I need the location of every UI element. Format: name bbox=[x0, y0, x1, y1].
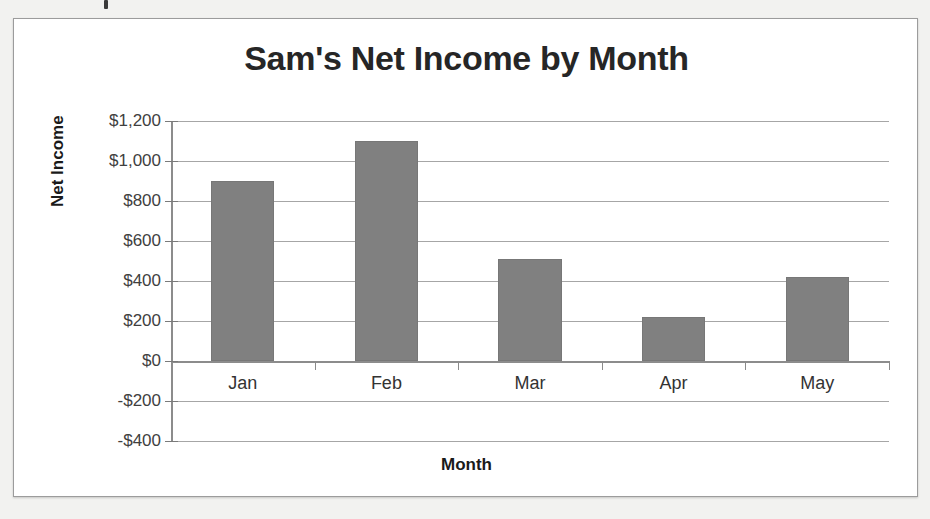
chart-title: Sam's Net Income by Month bbox=[14, 39, 919, 78]
x-axis-tick bbox=[458, 361, 459, 370]
x-axis-label-jan: Jan bbox=[228, 373, 257, 394]
x-axis-label-may: May bbox=[800, 373, 834, 394]
x-axis-label-mar: Mar bbox=[515, 373, 546, 394]
y-axis-tick bbox=[165, 361, 178, 362]
scan-artifact-speck bbox=[104, 0, 108, 9]
y-axis-tick bbox=[165, 441, 178, 442]
gridline bbox=[171, 441, 889, 442]
gridline bbox=[171, 361, 889, 363]
x-axis-tick bbox=[315, 361, 316, 370]
x-axis-title: Month bbox=[14, 455, 919, 475]
y-axis-tick-label: $1,200 bbox=[109, 111, 161, 131]
y-axis-tick-label: -$200 bbox=[118, 391, 161, 411]
chart-container: Sam's Net Income by Month Net Income Mon… bbox=[13, 18, 918, 497]
gridline bbox=[171, 201, 889, 202]
y-axis-tick-label: $0 bbox=[142, 351, 161, 371]
y-axis-title: Net Income bbox=[48, 115, 68, 207]
bar-apr[interactable] bbox=[642, 317, 705, 361]
x-axis-tick bbox=[745, 361, 746, 370]
y-axis-tick-label: -$400 bbox=[118, 431, 161, 451]
y-axis-tick bbox=[165, 281, 178, 282]
x-axis-tick bbox=[889, 361, 890, 370]
y-axis-tick bbox=[165, 121, 178, 122]
y-axis-tick bbox=[165, 201, 178, 202]
bar-feb[interactable] bbox=[355, 141, 418, 361]
bar-jan[interactable] bbox=[211, 181, 274, 361]
y-axis-tick bbox=[165, 401, 178, 402]
y-axis-tick-label: $800 bbox=[123, 191, 161, 211]
y-axis-tick-label: $600 bbox=[123, 231, 161, 251]
x-axis-tick bbox=[602, 361, 603, 370]
y-axis-tick bbox=[165, 321, 178, 322]
y-axis-tick-label: $200 bbox=[123, 311, 161, 331]
bar-mar[interactable] bbox=[498, 259, 561, 361]
y-axis-tick bbox=[165, 241, 178, 242]
plot-area: $1,200$1,000$800$600$400$200$0-$200-$400… bbox=[171, 121, 889, 441]
gridline bbox=[171, 161, 889, 162]
x-axis-label-apr: Apr bbox=[660, 373, 688, 394]
y-axis-tick-label: $1,000 bbox=[109, 151, 161, 171]
gridline bbox=[171, 241, 889, 242]
y-axis-tick-label: $400 bbox=[123, 271, 161, 291]
gridline bbox=[171, 121, 889, 122]
x-axis-label-feb: Feb bbox=[371, 373, 402, 394]
y-axis-tick bbox=[165, 161, 178, 162]
bar-may[interactable] bbox=[786, 277, 849, 361]
gridline bbox=[171, 401, 889, 402]
